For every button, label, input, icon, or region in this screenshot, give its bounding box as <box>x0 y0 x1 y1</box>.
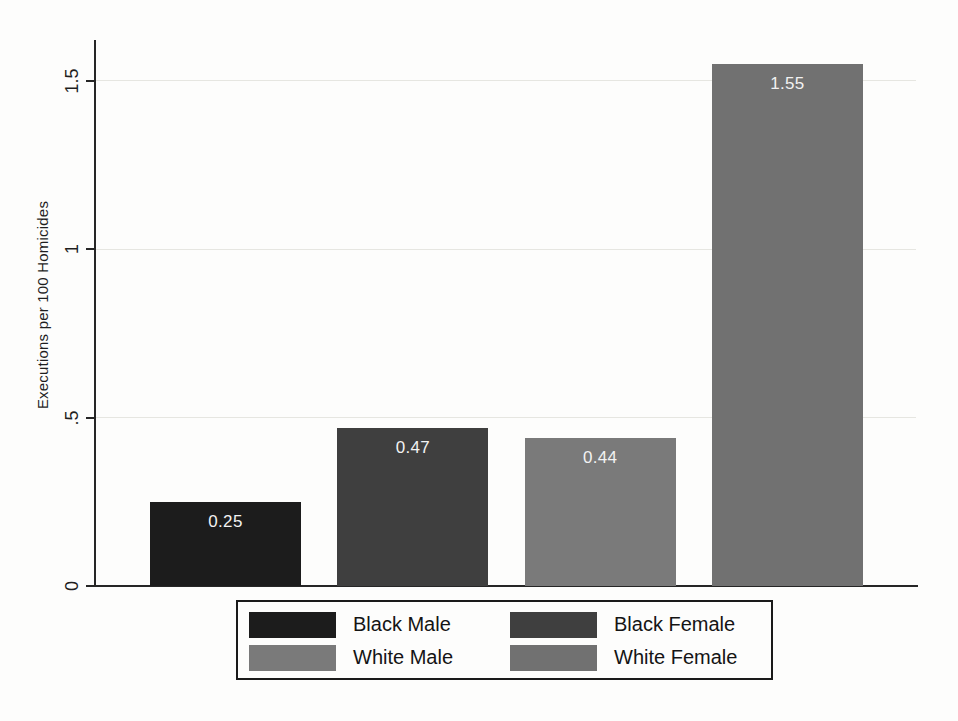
bar-value-label-black-male: 0.25 <box>208 512 242 532</box>
y-tick-mark-1 <box>86 248 95 250</box>
y-tick-label-.5: .5 <box>62 410 83 425</box>
y-tick-mark-0 <box>86 585 95 587</box>
y-tick-label-1: 1 <box>62 244 83 254</box>
legend-grid: Black MaleBlack FemaleWhite MaleWhite Fe… <box>238 602 771 674</box>
legend-label-black-female: Black Female <box>614 613 735 636</box>
y-tick-label-0: 0 <box>62 581 83 591</box>
legend-label-black-male: Black Male <box>353 613 451 636</box>
y-tick-mark-.5 <box>86 417 95 419</box>
legend-item-black-female: Black Female <box>510 612 771 638</box>
legend-label-white-female: White Female <box>614 646 737 669</box>
y-axis-line <box>94 40 96 587</box>
legend-swatch-black-female <box>510 612 597 638</box>
legend-label-white-male: White Male <box>353 646 453 669</box>
legend-item-white-female: White Female <box>510 645 771 671</box>
y-tick-mark-1.5 <box>86 80 95 82</box>
legend-item-black-male: Black Male <box>249 612 510 638</box>
legend-item-white-male: White Male <box>249 645 510 671</box>
bar-chart-figure: Executions per 100 Homicides 0.511.5 0.2… <box>0 0 958 721</box>
bar-value-label-white-female: 1.55 <box>770 74 804 94</box>
bar-value-label-black-female: 0.47 <box>396 438 430 458</box>
legend-swatch-white-male <box>249 645 336 671</box>
bar-black-male: 0.25 <box>150 502 301 586</box>
legend-swatch-black-male <box>249 612 336 638</box>
y-tick-label-1.5: 1.5 <box>62 68 83 93</box>
bar-white-male: 0.44 <box>525 438 676 586</box>
bar-black-female: 0.47 <box>337 428 488 586</box>
bar-value-label-white-male: 0.44 <box>583 448 617 468</box>
legend: Black MaleBlack FemaleWhite MaleWhite Fe… <box>236 600 773 680</box>
y-axis-title: Executions per 100 Homicides <box>34 201 51 409</box>
bar-white-female: 1.55 <box>712 64 863 586</box>
legend-swatch-white-female <box>510 645 597 671</box>
